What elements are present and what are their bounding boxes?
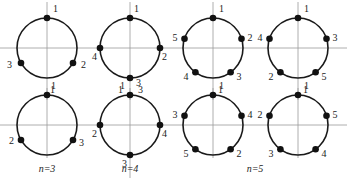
point-marker (312, 69, 319, 76)
point-marker (323, 35, 330, 42)
captions-layer: n=3n=4n=5 (39, 163, 264, 174)
point-label: 1 (134, 3, 139, 14)
caption-n-5: n=5 (247, 163, 264, 174)
point-marker (127, 152, 134, 159)
point-marker (127, 15, 134, 22)
point-label: 3 (79, 137, 84, 148)
overflow-label: 1 (50, 84, 55, 95)
overflow-label: 3 (138, 84, 143, 95)
point-label: 4 (322, 148, 327, 159)
circle-group-n5b-top: 13524 (258, 3, 338, 82)
point-marker (192, 146, 199, 153)
point-label: 2 (92, 128, 97, 139)
point-label: 2 (162, 51, 167, 62)
point-marker (210, 15, 217, 22)
point-marker (127, 75, 134, 82)
rotation-diagram: 1231234123451352413214321425315432 11311… (0, 0, 347, 187)
point-label: 5 (173, 32, 178, 43)
point-marker (97, 122, 104, 129)
point-label: 4 (248, 109, 253, 120)
point-marker (238, 112, 245, 119)
point-marker (312, 146, 319, 153)
point-label: 5 (333, 109, 338, 120)
point-label: 3 (173, 109, 178, 120)
point-label: 4 (92, 51, 97, 62)
point-label: 5 (183, 148, 188, 159)
point-marker (295, 92, 302, 99)
point-marker (192, 69, 199, 76)
circle-group-n5b-bottom: 15432 (258, 80, 338, 159)
point-marker (18, 60, 25, 67)
overflow-label: 1 (303, 84, 308, 95)
point-marker (277, 146, 284, 153)
point-marker (127, 92, 134, 99)
circle-group-n5-bottom: 14253 (173, 80, 253, 159)
point-label: 1 (304, 3, 309, 14)
point-label: 1 (219, 3, 224, 14)
point-marker (295, 15, 302, 22)
point-marker (210, 92, 217, 99)
point-marker (323, 112, 330, 119)
point-marker (238, 35, 245, 42)
point-marker (18, 137, 25, 144)
caption-n-3: n=3 (39, 163, 56, 174)
circle-group-n5-top: 12345 (173, 3, 253, 82)
point-label: 3 (333, 32, 338, 43)
point-label: 1 (53, 3, 58, 14)
point-label: 4 (258, 32, 263, 43)
point-marker (277, 69, 284, 76)
point-label: 3 (7, 59, 12, 70)
point-label: 2 (9, 135, 14, 146)
overflow-label: 1 (118, 84, 123, 95)
point-label: 3 (237, 71, 242, 82)
overflow-label: 1 (218, 84, 223, 95)
circle-group-n4-top: 1234 (92, 3, 167, 88)
point-marker (181, 35, 188, 42)
point-label: 2 (258, 109, 263, 120)
circles-layer: 1231234123451352413214321425315432 (7, 3, 338, 169)
point-label: 4 (183, 71, 188, 82)
circle-group-n3-top: 123 (7, 3, 86, 78)
point-label: 5 (322, 71, 327, 82)
extra-labels-layer: 11311 (50, 84, 308, 95)
point-label: 4 (162, 128, 167, 139)
point-marker (227, 146, 234, 153)
point-marker (181, 112, 188, 119)
point-label: 3 (268, 148, 273, 159)
point-label: 2 (268, 71, 273, 82)
circle-group-n3-bottom: 132 (9, 80, 84, 155)
point-marker (44, 15, 51, 22)
caption-n-4: n=4 (122, 163, 139, 174)
point-label: 2 (237, 148, 242, 159)
point-marker (266, 35, 273, 42)
point-marker (70, 60, 77, 67)
point-marker (266, 112, 273, 119)
circle-group-n4-bottom: 1432 (92, 80, 167, 169)
point-label: 2 (81, 59, 86, 70)
point-label: 2 (248, 32, 253, 43)
point-marker (227, 69, 234, 76)
point-marker (97, 45, 104, 52)
point-marker (70, 137, 77, 144)
